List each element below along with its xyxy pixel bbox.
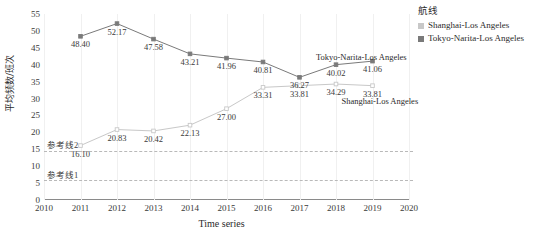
y-axis-tick: 25 [31, 111, 40, 120]
data-point-label: 16.10 [71, 150, 90, 159]
legend-title: 航线 [418, 4, 543, 18]
x-axis-tick: 2020 [400, 204, 418, 213]
grid-line-vertical [409, 14, 410, 200]
data-point-marker [152, 129, 156, 133]
legend-swatch-icon [418, 36, 424, 42]
y-axis-title: 平均频数/班次 [3, 49, 16, 119]
x-axis-tick: 2011 [72, 204, 90, 213]
data-point-label: 33.31 [253, 91, 272, 100]
legend-item[interactable]: Tokyo-Narita-Los Angeles [418, 32, 543, 45]
data-point-label: 36.27 [290, 81, 309, 90]
data-point-marker [79, 144, 83, 148]
legend-swatch-icon [418, 23, 424, 29]
y-axis-tick: 20 [31, 128, 40, 137]
data-point-marker [371, 84, 375, 88]
data-point-label: 27.00 [217, 113, 236, 122]
data-point-label: 40.02 [326, 69, 345, 78]
data-point-marker [334, 82, 338, 86]
data-point-label: 47.58 [144, 43, 163, 52]
y-axis-tick: 45 [31, 43, 40, 52]
x-axis-tick: 2016 [254, 204, 272, 213]
data-point-label: 48.40 [71, 40, 90, 49]
x-axis-tick: 2014 [181, 204, 199, 213]
series-annotation-shanghai: Shanghai-Los Angeles [341, 97, 418, 106]
data-point-label: 41.96 [217, 62, 236, 71]
line-chart: 平均频数/班次 05101520253035404550552010201120… [0, 0, 545, 240]
y-axis-tick: 40 [31, 60, 40, 69]
x-axis-tick: 2012 [108, 204, 126, 213]
y-axis-tick: 35 [31, 77, 40, 86]
legend-item-label: Shanghai-Los Angeles [428, 19, 509, 32]
data-point-marker [298, 76, 302, 80]
x-axis-tick: 2010 [35, 204, 53, 213]
plot-area: 0510152025303540455055201020112012201320… [44, 14, 409, 200]
data-point-label: 40.81 [253, 66, 272, 75]
y-axis-tick: 15 [31, 145, 40, 154]
y-axis-tick: 50 [31, 26, 40, 35]
data-point-marker [115, 128, 119, 132]
data-point-marker [188, 52, 192, 56]
x-axis-tick: 2017 [291, 204, 309, 213]
data-point-marker [334, 63, 338, 67]
x-axis-tick: 2018 [327, 204, 345, 213]
data-point-label: 20.83 [107, 134, 126, 143]
data-point-label: 33.81 [290, 90, 309, 99]
data-point-label: 43.21 [180, 58, 199, 67]
legend-item[interactable]: Shanghai-Los Angeles [418, 19, 543, 32]
x-axis-title: Time series [199, 218, 245, 229]
data-point-marker [152, 37, 156, 41]
x-axis-tick: 2019 [364, 204, 382, 213]
y-axis-tick: 10 [31, 162, 40, 171]
legend-item-list: Shanghai-Los AngelesTokyo-Narita-Los Ang… [418, 19, 543, 45]
data-point-marker [79, 35, 83, 39]
data-point-marker [188, 123, 192, 127]
data-point-marker [261, 60, 265, 64]
data-point-label: 41.06 [363, 65, 382, 74]
y-axis-tick: 30 [31, 94, 40, 103]
series-layer [44, 14, 409, 200]
series-annotation-tokyo: Tokyo-Narita-Los Angeles [316, 53, 407, 62]
data-point-marker [115, 22, 119, 26]
y-axis-tick: 55 [31, 10, 40, 19]
legend: 航线 Shanghai-Los AngelesTokyo-Narita-Los … [418, 4, 543, 45]
data-point-label: 20.42 [144, 135, 163, 144]
x-axis-tick: 2013 [145, 204, 163, 213]
data-point-marker [225, 107, 229, 111]
data-point-label: 22.13 [180, 129, 199, 138]
y-axis-tick: 5 [36, 179, 41, 188]
legend-item-label: Tokyo-Narita-Los Angeles [428, 32, 524, 45]
x-axis-tick: 2015 [218, 204, 236, 213]
data-point-marker [261, 86, 265, 90]
data-point-marker [225, 56, 229, 60]
data-point-label: 52.17 [107, 28, 126, 37]
